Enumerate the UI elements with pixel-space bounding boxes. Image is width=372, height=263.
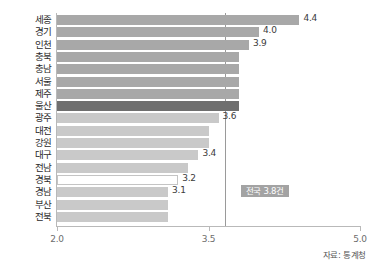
bar	[57, 77, 239, 87]
bar	[57, 187, 168, 197]
header-faint-text	[280, 0, 366, 8]
bar-value-label: 4.0	[263, 25, 277, 35]
category-label: 경남	[0, 186, 52, 197]
category-label: 대전	[0, 125, 52, 136]
category-label: 강원	[0, 137, 52, 148]
category-label: 전북	[0, 211, 52, 222]
x-tick-mark	[360, 226, 361, 231]
category-label: 충북	[0, 51, 52, 62]
bar-row: 4.0	[57, 27, 360, 38]
bar-row	[57, 89, 360, 100]
bar-row: 3.2	[57, 175, 360, 186]
bar-value-label: 3.4	[202, 148, 216, 158]
bar-row	[57, 52, 360, 63]
bar	[57, 40, 249, 50]
category-label: 전남	[0, 162, 52, 173]
bar-row	[57, 64, 360, 75]
bar	[57, 101, 239, 111]
bar	[57, 212, 168, 222]
bar-row	[57, 163, 360, 174]
x-tick-label: 5.0	[353, 234, 367, 244]
bar	[57, 138, 209, 148]
x-tick-label: 2.0	[50, 234, 64, 244]
bar	[57, 175, 178, 185]
category-label: 울산	[0, 100, 52, 111]
x-tick-mark	[57, 226, 58, 231]
x-tick-mark	[209, 226, 210, 231]
bar-row: 4.4	[57, 15, 360, 26]
category-label: 세종	[0, 14, 52, 25]
category-label: 부산	[0, 199, 52, 210]
bar-value-label: 3.9	[253, 38, 267, 48]
bar	[57, 150, 198, 160]
category-label: 대구	[0, 149, 52, 160]
bar	[57, 126, 209, 136]
category-label: 광주	[0, 112, 52, 123]
category-label: 충남	[0, 63, 52, 74]
bar-chart: 2.03.55.0 세종4.4경기4.0인천3.9충북충남서울제주울산광주3.6…	[0, 0, 372, 263]
bar-row	[57, 200, 360, 211]
bar	[57, 200, 168, 210]
bar-row: 3.1	[57, 187, 360, 198]
bar-row: 3.4	[57, 150, 360, 161]
national-average-badge: 전국 3.8건	[241, 185, 289, 197]
category-label: 경기	[0, 26, 52, 37]
bar-value-label: 3.1	[172, 185, 186, 195]
bar	[57, 89, 239, 99]
category-label: 경북	[0, 174, 52, 185]
category-label: 서울	[0, 76, 52, 87]
x-tick-label: 3.5	[202, 234, 216, 244]
bar-row: 3.6	[57, 113, 360, 124]
bar	[57, 64, 239, 74]
bar	[57, 113, 219, 123]
bar-row	[57, 212, 360, 223]
bar-row	[57, 77, 360, 88]
bar-row	[57, 101, 360, 112]
bar-row: 3.9	[57, 40, 360, 51]
bar-value-label: 3.2	[182, 173, 196, 183]
bar-value-label: 3.6	[223, 111, 237, 121]
bar-row	[57, 126, 360, 137]
bar-value-label: 4.4	[303, 13, 317, 23]
category-label: 인천	[0, 39, 52, 50]
bar	[57, 15, 299, 25]
source-note: 자료: 통계청	[323, 248, 366, 260]
category-label: 제주	[0, 88, 52, 99]
bar	[57, 52, 239, 62]
bar	[57, 27, 259, 37]
bar	[57, 163, 188, 173]
